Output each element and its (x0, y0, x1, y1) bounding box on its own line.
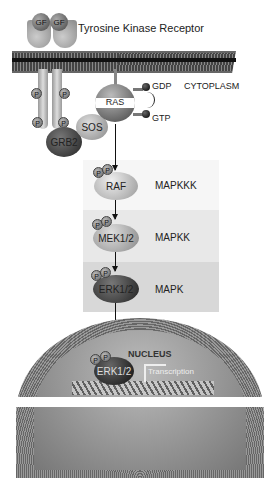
gdp-label: GDP (152, 81, 172, 91)
nucleus-bottom-clip (0, 397, 274, 407)
ras-protein: RAS (95, 84, 135, 122)
phosphate-icon: P (100, 351, 111, 362)
mapk-label: MAPK (155, 284, 183, 295)
phosphate-icon: P (31, 88, 42, 99)
arrow-ras-to-raf (115, 124, 116, 170)
gtp-label: GTP (152, 113, 171, 123)
gdp-ball (142, 83, 150, 91)
cell-membrane-right (116, 51, 236, 73)
transcription-label: Transcription (148, 367, 194, 376)
sos-label: SOS (81, 122, 102, 133)
phosphate-icon: P (102, 164, 113, 175)
mapkkk-label: MAPKKK (155, 180, 197, 191)
membrane-core (12, 58, 236, 62)
growth-factor-ligand: GF (32, 13, 50, 31)
arrow-mek-to-erk (115, 251, 116, 271)
cytoplasm-label: CYTOPLASM (184, 81, 239, 91)
raf-label: RAF (106, 181, 126, 192)
gtp-ball (142, 110, 150, 118)
grb2-label: GRB2 (50, 137, 77, 148)
nuclear-erk-label: ERK1/2 (97, 366, 131, 377)
ras-membrane-anchor (114, 69, 117, 85)
erk-label: ERK1/2 (99, 284, 133, 295)
ligand-label: GF (53, 18, 64, 27)
phosphate-icon: P (32, 117, 43, 128)
mek-label: MEK1/2 (98, 233, 134, 244)
mapkk-label: MAPKK (155, 232, 190, 243)
phosphate-icon: P (59, 88, 70, 99)
gdp-gtp-exchange-arrow (146, 92, 155, 108)
phosphate-icon: P (101, 216, 112, 227)
growth-factor-ligand: GF (50, 13, 68, 31)
ligand-label: GF (35, 18, 46, 27)
arrow-raf-to-mek (115, 199, 116, 219)
cell-membrane (12, 51, 120, 73)
nucleus-label: NUCLEUS (128, 349, 172, 359)
phosphate-icon: P (100, 267, 111, 278)
dna-helix (72, 381, 214, 395)
receptor-title: Tyrosine Kinase Receptor (78, 22, 204, 34)
ras-label: RAS (95, 97, 135, 107)
